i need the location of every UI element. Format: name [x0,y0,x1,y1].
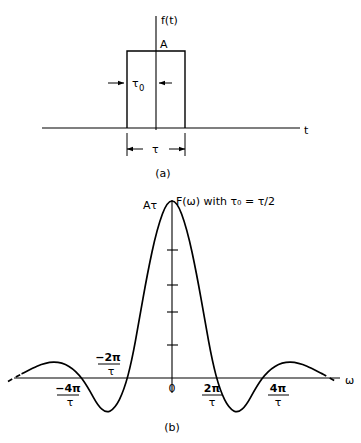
tau0-label: τ [132,77,139,90]
panel-b-title-text: F(ω) with τ₀ = τ/2 [176,195,275,208]
tau0-subscript: 0 [139,83,144,93]
fourier-transform-figure: f(t) A t τ 0 τ (a) [0,0,361,443]
tau-label: τ [152,143,159,156]
panel-b-title: F(ω) with τ₀ = τ/2 [176,195,275,208]
panel-b-x-axis-label: ω [345,374,354,387]
panel-b-caption: (b) [164,421,180,434]
xtick-label-minus-4pi-tau: −4π τ [55,382,81,409]
xtick-minus4pi-numerator: −4π [55,382,81,395]
panel-b: F(ω) with τ₀ = τ/2 Aτ ω −4π τ −2π τ 0 2π [8,195,354,434]
figure-container: f(t) A t τ 0 τ (a) [0,0,361,443]
xtick-2pi-denominator: τ [209,396,216,409]
panel-a-y-axis-label: f(t) [161,14,178,27]
xtick-2pi-numerator: 2π [204,382,221,395]
panel-a-caption: (a) [155,167,170,180]
xtick-minus4pi-denominator: τ [67,396,74,409]
panel-a-x-axis-label: t [304,124,309,137]
xtick-minus2pi-denominator: τ [108,365,115,378]
peak-label: Aτ [143,199,158,212]
xtick-label-minus-2pi-tau: −2π τ [95,351,121,378]
xtick-label-4pi-tau: 4π τ [268,382,289,409]
panel-a: f(t) A t τ 0 τ (a) [42,14,309,180]
xtick-minus2pi-numerator: −2π [95,351,121,364]
xtick-label-zero: 0 [169,382,176,395]
amplitude-label: A [160,38,168,51]
xtick-4pi-denominator: τ [275,396,282,409]
xtick-4pi-numerator: 4π [270,382,287,395]
xtick-label-2pi-tau: 2π τ [202,382,223,409]
